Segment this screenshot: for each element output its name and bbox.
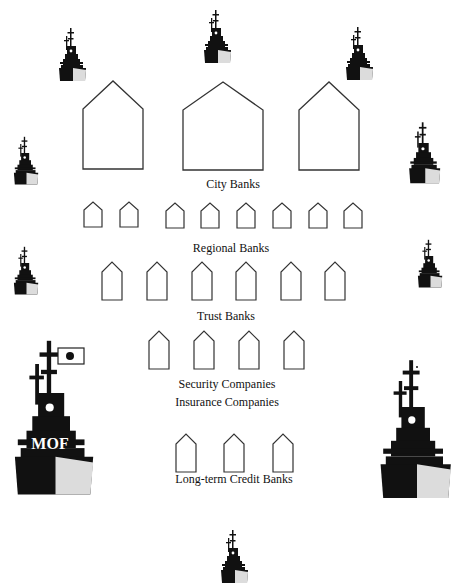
regional-bank-icon [201,203,219,228]
trust-bank-icon [325,262,345,300]
regional-bank-icon [84,202,102,227]
escort-ship-icon [204,10,231,63]
regional-bank-icon [120,202,138,227]
mof-label: MOF [31,435,68,453]
escort-ship-icon [59,28,86,81]
escort-ship-icon [221,530,248,583]
regional-banks-label: Regional Banks [193,241,269,256]
escort-ship-icon [409,122,440,183]
regional-bank-icon [309,203,327,228]
security-company-icon [194,331,214,369]
convoy-diagram [0,0,460,586]
insurance-companies-label: Insurance Companies [175,395,279,410]
security-company-icon [284,331,304,369]
escort-ship-icon [418,240,442,288]
security-company-icon [239,331,259,369]
city-bank-icon [299,82,359,170]
long-term-credit-banks-label: Long-term Credit Banks [175,472,292,487]
trust-banks-label: Trust Banks [197,309,255,324]
trust-bank-icon [102,262,122,300]
escort-ship-icon [14,137,38,185]
long-term-credit-bank-icon [273,434,293,472]
regional-bank-icon [273,203,291,228]
regional-bank-icon [166,203,184,228]
city-bank-icon [83,81,143,169]
trust-bank-icon [192,262,212,300]
trust-bank-icon [236,262,256,300]
city-banks-label: City Banks [206,177,260,192]
long-term-credit-bank-icon [176,434,196,472]
security-companies-label: Security Companies [179,377,276,392]
security-company-icon [149,331,169,369]
escort-ship-icon [346,27,373,80]
large-ship-icon [381,360,451,498]
escort-ship-icon [14,247,38,295]
mof-flagship-icon [15,341,93,495]
long-term-credit-bank-icon [224,434,244,472]
trust-bank-icon [281,262,301,300]
trust-bank-icon [147,262,167,300]
city-bank-icon [183,82,263,170]
regional-bank-icon [237,203,255,228]
regional-bank-icon [344,203,362,228]
